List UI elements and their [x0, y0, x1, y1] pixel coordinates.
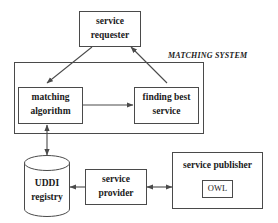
- matching-algorithm-label-line2: algorithm: [30, 106, 70, 116]
- node-service-publisher[interactable]: service publisher OWL: [173, 153, 263, 209]
- node-finding-best-service[interactable]: finding best service: [135, 88, 199, 124]
- finding-best-service-label-line1: finding best: [143, 92, 192, 102]
- node-service-requester[interactable]: service requester: [80, 12, 141, 47]
- node-matching-algorithm[interactable]: matching algorithm: [19, 88, 83, 124]
- matching-system-label: MATCHING SYSTEM: [167, 51, 248, 60]
- service-publisher-label: service publisher: [183, 160, 253, 170]
- edge-finding-best-service-to-requester: [131, 47, 167, 83]
- diagram-svg: MATCHING SYSTEM service requester matchi…: [0, 0, 278, 223]
- service-provider-label-line2: provider: [98, 188, 134, 198]
- matching-algorithm-label-line1: matching: [32, 92, 70, 102]
- owl-label: OWL: [208, 183, 227, 193]
- node-owl[interactable]: OWL: [203, 181, 233, 198]
- node-uddi-registry[interactable]: UDDI registry: [25, 156, 70, 217]
- diagram-canvas: MATCHING SYSTEM service requester matchi…: [0, 0, 278, 223]
- uddi-registry-label-line2: registry: [31, 192, 63, 202]
- uddi-registry-label-line1: UDDI: [35, 178, 60, 188]
- edge-requester-to-matching-algorithm: [47, 47, 92, 83]
- service-requester-label-line2: requester: [91, 30, 130, 40]
- service-requester-label-line1: service: [96, 16, 124, 26]
- finding-best-service-label-line2: service: [153, 106, 181, 116]
- node-service-provider[interactable]: service provider: [86, 170, 147, 205]
- service-provider-label-line1: service: [102, 174, 130, 184]
